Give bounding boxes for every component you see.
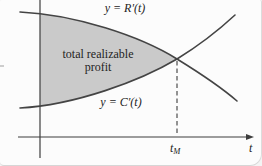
cost-curve-label: y = C′(t): [100, 96, 141, 109]
profit-region-label-line2: profit: [63, 61, 134, 74]
figure-canvas: [0, 0, 262, 166]
tm-tick-label: tM: [170, 142, 180, 158]
left-edge-scan-mark: [0, 65, 4, 67]
t-axis-arrowhead-icon: [246, 134, 254, 140]
revenue-curve-label: y = R′(t): [105, 2, 146, 15]
t-axis-label: t: [249, 142, 252, 155]
tm-tick-subscript: M: [173, 146, 180, 156]
marginal-revenue-cost-figure: y = R′(t) y = C′(t) total realizable pro…: [0, 0, 262, 166]
profit-region-label: total realizable profit: [63, 48, 134, 74]
